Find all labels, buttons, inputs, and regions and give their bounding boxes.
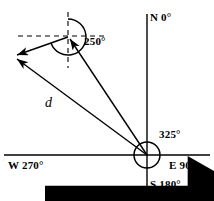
vector-d-glyph: d xyxy=(45,96,52,110)
leg-two-vector xyxy=(17,37,68,55)
north-label: N 0° xyxy=(150,12,171,23)
angle-250-label: 250° xyxy=(84,36,106,47)
vector-diagram-figure: N 0° S 180° E 90° W 270° 250° 325° d xyxy=(0,0,214,201)
west-label: W 270° xyxy=(8,160,44,171)
resultant-vector-label: d xyxy=(45,96,52,110)
vector-arrow-overbar xyxy=(45,96,214,201)
